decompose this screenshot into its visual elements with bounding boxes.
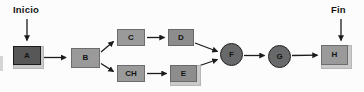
node-e-frame: E [170,65,201,86]
node-h: H [321,45,348,65]
node-h-label: H [332,51,338,59]
edge-e-f [200,60,218,66]
node-d: D [168,29,194,46]
node-e-label: E [181,70,186,78]
node-g: G [268,45,291,68]
node-c-label: C [128,34,134,42]
edge-b-c [101,42,114,53]
node-f: F [220,43,243,66]
node-a: A [13,46,41,65]
node-ch: CH [117,65,145,82]
start-label: Inicio [13,4,39,15]
node-g-label: G [276,53,282,61]
node-b-label: B [83,54,89,62]
flowchart-diagram: Inicio Fin A B C D CH E F G H [0,0,364,92]
scan-artifact [0,56,3,71]
node-c: C [117,29,145,46]
end-label: Fin [331,4,346,15]
node-b: B [71,48,100,68]
edge-d-f [195,43,218,52]
node-a-label: A [24,52,30,60]
node-d-label: D [178,34,184,42]
node-a-frame: A [13,46,44,69]
edge-b-ch [101,64,114,72]
node-f-label: F [229,51,234,59]
node-e: E [170,65,197,82]
node-ch-label: CH [125,70,137,78]
node-h-frame: H [321,45,352,69]
